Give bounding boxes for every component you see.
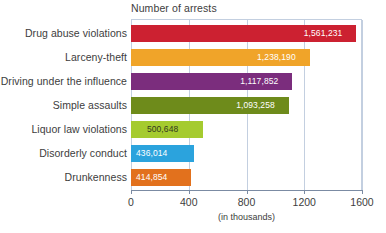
category-label: Drunkenness xyxy=(65,169,127,186)
category-label: Drug abuse violations xyxy=(25,25,127,42)
x-tick-mark xyxy=(189,190,190,194)
category-label: Driving under the influence xyxy=(1,73,127,90)
x-axis-caption: (in thousands) xyxy=(131,212,362,222)
bar-value-label: 436,014 xyxy=(136,145,167,162)
bar-row: 1,238,190 xyxy=(131,49,362,66)
bar-value-label: 1,117,852 xyxy=(240,73,278,90)
bar-value-label: 1,093,258 xyxy=(236,97,275,114)
x-tick-mark xyxy=(362,190,363,194)
bar-row: 436,014 xyxy=(131,145,362,162)
bar-row: 1,561,231 xyxy=(131,25,362,42)
x-tick-mark xyxy=(304,190,305,194)
x-tick-label: 1600 xyxy=(350,196,373,208)
category-label: Larceny-theft xyxy=(65,49,127,66)
bars-layer: 1,561,2311,238,1901,117,8521,093,258500,… xyxy=(131,19,362,191)
x-tick-label: 0 xyxy=(128,196,134,208)
category-label: Liquor law violations xyxy=(31,121,127,138)
x-tick-label: 1200 xyxy=(293,196,316,208)
chart-title: Number of arrests xyxy=(131,2,217,14)
bar-chart: Number of arrests 1,561,2311,238,1901,11… xyxy=(0,0,386,233)
bar-row: 1,093,258 xyxy=(131,97,362,114)
category-label: Disorderly conduct xyxy=(39,145,127,162)
x-tick-label: 400 xyxy=(180,196,198,208)
category-label: Simple assaults xyxy=(53,97,127,114)
x-tick-label: 800 xyxy=(238,196,256,208)
x-tick-mark xyxy=(247,190,248,194)
category-axis-labels: Drug abuse violationsLarceny-theftDrivin… xyxy=(0,19,127,191)
bar-value-label: 500,648 xyxy=(147,121,178,138)
bar-row: 500,648 xyxy=(131,121,362,138)
bar-row: 414,854 xyxy=(131,169,362,186)
gridline xyxy=(362,20,363,190)
bar-value-label: 1,238,190 xyxy=(257,49,296,66)
bar-value-label: 1,561,231 xyxy=(304,25,343,42)
x-tick-mark xyxy=(131,190,132,194)
bar-value-label: 414,854 xyxy=(136,169,167,186)
bar-row: 1,117,852 xyxy=(131,73,362,90)
